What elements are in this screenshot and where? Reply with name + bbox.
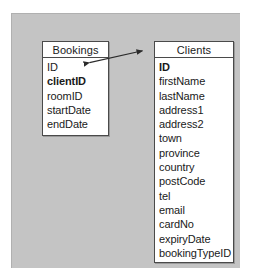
attribute-row: cardNo [155,217,233,231]
attribute-row-primary-key: ID [155,60,233,74]
attribute-row: lastName [155,89,233,103]
attribute-row: firstName [155,74,233,88]
attribute-row: country [155,160,233,174]
attribute-row: province [155,146,233,160]
attribute-row: town [155,131,233,145]
entity-title-clients: Clients [155,42,233,58]
diagram-canvas: Bookings ID clientID roomID startDate en… [0,0,255,278]
attribute-list-clients: ID firstName lastName address1 address2 … [155,58,233,260]
attribute-row: tel [155,189,233,203]
entity-title-bookings: Bookings [43,42,108,58]
attribute-row: endDate [43,117,108,131]
attribute-row: email [155,203,233,217]
attribute-row: ID [43,60,108,74]
attribute-row-foreign-key: clientID [43,74,108,88]
er-diagram-panel: Bookings ID clientID roomID startDate en… [11,13,240,268]
attribute-row: postCode [155,174,233,188]
entity-box-bookings[interactable]: Bookings ID clientID roomID startDate en… [42,41,109,136]
attribute-list-bookings: ID clientID roomID startDate endDate [43,58,108,131]
attribute-row: address2 [155,117,233,131]
attribute-row: bookingTypeID [155,246,233,260]
attribute-row: roomID [43,89,108,103]
attribute-row: expiryDate [155,232,233,246]
attribute-row: startDate [43,103,108,117]
entity-box-clients[interactable]: Clients ID firstName lastName address1 a… [154,41,234,263]
attribute-row: address1 [155,103,233,117]
